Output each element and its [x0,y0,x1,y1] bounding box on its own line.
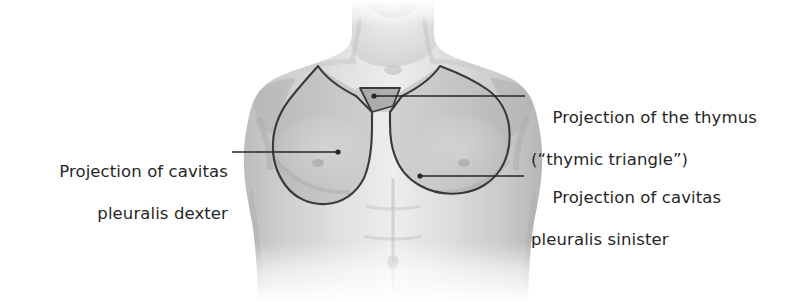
leader-dot-thymus [371,93,376,98]
label-pleura-sinister: Projection of cavitas pleuralis sinister [531,166,781,292]
label-pleura-sinister-line2: pleuralis sinister [531,229,781,250]
label-thymus-line1: Projection of the thymus [552,108,757,127]
jugular-notch [384,65,402,75]
anatomical-figure: Projection of cavitas pleuralis dexter P… [0,0,785,302]
leader-dot-pleura-dexter [335,149,340,154]
label-pleura-dexter-line2: pleuralis dexter [18,203,228,224]
leader-dot-pleura-sinister [417,173,422,178]
top-fade [0,0,785,26]
label-pleura-dexter-line1: Projection of cavitas [59,162,228,181]
label-pleura-dexter: Projection of cavitas pleuralis dexter [18,140,228,266]
label-pleura-sinister-line1: Projection of cavitas [552,188,721,207]
